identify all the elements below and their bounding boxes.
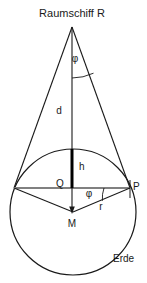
tangent-line-left (14, 27, 72, 188)
title-label: Raumschiff R (39, 7, 105, 19)
geometry-canvas: Raumschiff R φ d h Q φ r P M Erde (0, 0, 147, 283)
segment-label-d: d (56, 105, 62, 116)
radius-line-m-left (14, 188, 73, 212)
point-label-q: Q (56, 178, 64, 189)
body-label-erde: Erde (113, 253, 135, 264)
point-label-m: M (68, 218, 76, 229)
angle-label-apex: φ (72, 53, 79, 64)
segment-label-r: r (99, 201, 103, 212)
angle-label-center: φ (86, 188, 93, 199)
geometry-diagram: Raumschiff R φ d h Q φ r P M Erde (0, 0, 147, 283)
segment-label-h: h (79, 161, 85, 172)
point-label-p: P (133, 181, 140, 192)
